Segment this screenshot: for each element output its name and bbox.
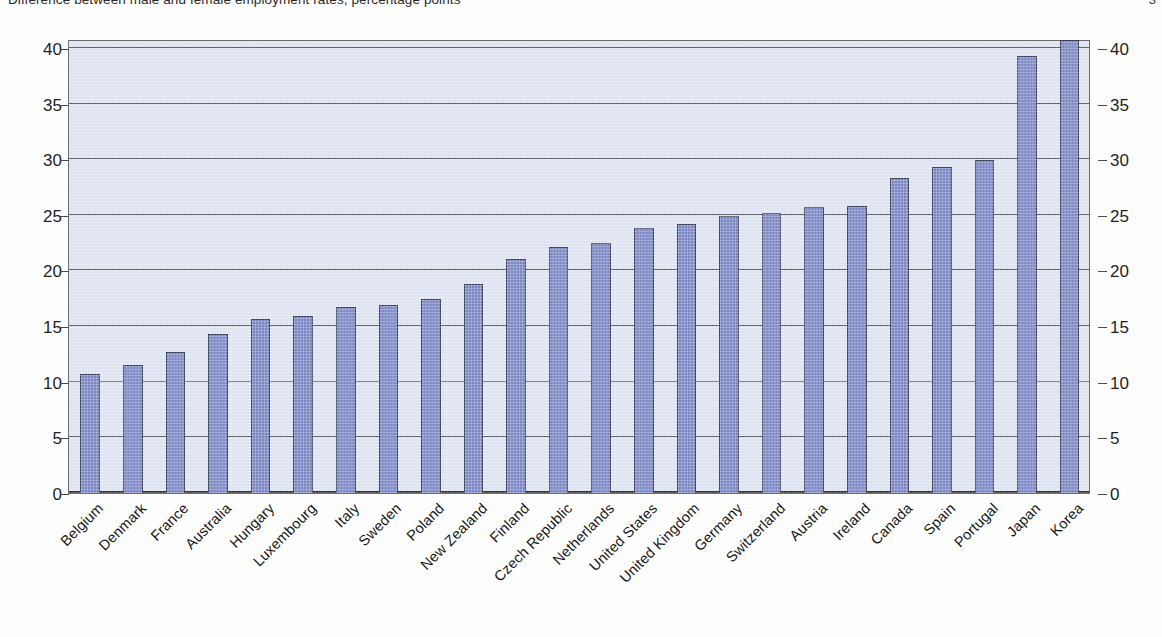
bar bbox=[506, 259, 526, 493]
bar bbox=[762, 213, 782, 493]
x-axis-label-korea: Korea bbox=[1047, 500, 1086, 539]
x-axis-label-austria: Austria bbox=[787, 500, 831, 544]
bar bbox=[549, 247, 569, 493]
gridline-40 bbox=[69, 47, 1089, 48]
y-tick-mark-right-15 bbox=[1098, 327, 1107, 328]
bar bbox=[890, 178, 910, 493]
y-tick-label-right-35: 35 bbox=[1110, 96, 1162, 113]
x-axis-label-united-kingdom: United Kingdom bbox=[617, 500, 703, 586]
x-axis-label-portugal: Portugal bbox=[950, 500, 1000, 550]
y-tick-mark-left-15 bbox=[60, 327, 69, 328]
y-tick-mark-right-40 bbox=[1098, 49, 1107, 50]
bar bbox=[336, 307, 356, 493]
bar bbox=[80, 374, 100, 493]
x-axis-label-canada: Canada bbox=[868, 500, 916, 548]
y-tick-mark-left-20 bbox=[60, 271, 69, 272]
y-tick-mark-left-35 bbox=[60, 105, 69, 106]
x-axis-label-sweden: Sweden bbox=[356, 500, 405, 549]
y-tick-label-right-30: 30 bbox=[1110, 152, 1162, 169]
bar bbox=[123, 365, 143, 493]
bar bbox=[251, 319, 271, 493]
plot-area bbox=[68, 40, 1090, 494]
bar bbox=[421, 299, 441, 493]
y-tick-label-left-20: 20 bbox=[4, 263, 62, 280]
y-tick-label-right-15: 15 bbox=[1110, 319, 1162, 336]
bar bbox=[677, 224, 697, 493]
y-tick-mark-left-10 bbox=[60, 383, 69, 384]
x-axis-category-labels: BelgiumDenmarkFranceAustraliaHungaryLuxe… bbox=[0, 494, 1162, 637]
bar bbox=[847, 206, 867, 493]
chart-figure: Difference between male and female emplo… bbox=[0, 0, 1162, 637]
bar bbox=[804, 207, 824, 493]
bar bbox=[932, 167, 952, 493]
y-axis-left: 0510152025303540 bbox=[0, 40, 62, 494]
bar bbox=[591, 243, 611, 493]
bar bbox=[208, 334, 228, 493]
y-tick-label-left-30: 30 bbox=[4, 152, 62, 169]
y-tick-label-left-10: 10 bbox=[4, 374, 62, 391]
y-tick-label-right-5: 5 bbox=[1110, 430, 1162, 447]
x-axis-label-spain: Spain bbox=[920, 500, 958, 538]
y-tick-mark-right-30 bbox=[1098, 160, 1107, 161]
y-tick-label-right-20: 20 bbox=[1110, 263, 1162, 280]
y-tick-mark-right-10 bbox=[1098, 383, 1107, 384]
y-tick-label-right-10: 10 bbox=[1110, 374, 1162, 391]
y-tick-mark-left-40 bbox=[60, 49, 69, 50]
y-tick-mark-left-25 bbox=[60, 216, 69, 217]
x-axis-label-italy: Italy bbox=[331, 500, 362, 531]
bar bbox=[464, 284, 484, 493]
y-tick-mark-right-35 bbox=[1098, 105, 1107, 106]
y-tick-label-right-25: 25 bbox=[1110, 207, 1162, 224]
bar bbox=[293, 316, 313, 493]
bar bbox=[975, 160, 995, 493]
x-axis-label-japan: Japan bbox=[1004, 500, 1044, 540]
y-tick-mark-right-25 bbox=[1098, 216, 1107, 217]
y-axis-right: 0510152025303540 bbox=[1098, 40, 1160, 494]
y-tick-label-left-5: 5 bbox=[4, 430, 62, 447]
y-tick-label-left-35: 35 bbox=[4, 96, 62, 113]
bar bbox=[379, 305, 399, 493]
y-tick-mark-right-20 bbox=[1098, 271, 1107, 272]
x-axis-label-australia: Australia bbox=[182, 500, 234, 552]
chart-title: Difference between male and female emplo… bbox=[8, 0, 1148, 8]
y-tick-label-left-25: 25 bbox=[4, 207, 62, 224]
y-tick-label-left-15: 15 bbox=[4, 319, 62, 336]
y-tick-label-right-40: 40 bbox=[1110, 40, 1162, 57]
y-tick-label-left-40: 40 bbox=[4, 40, 62, 57]
bar bbox=[634, 228, 654, 493]
y-tick-mark-right-5 bbox=[1098, 438, 1107, 439]
bar bbox=[719, 216, 739, 493]
gridline-30 bbox=[69, 158, 1089, 159]
bar bbox=[1017, 56, 1037, 493]
bar bbox=[166, 352, 186, 493]
x-axis-label-ireland: Ireland bbox=[830, 500, 873, 543]
y-tick-mark-left-5 bbox=[60, 438, 69, 439]
gridline-35 bbox=[69, 103, 1089, 104]
bar bbox=[1060, 40, 1080, 493]
y-tick-mark-left-30 bbox=[60, 160, 69, 161]
page-number: 3 bbox=[1149, 0, 1156, 7]
